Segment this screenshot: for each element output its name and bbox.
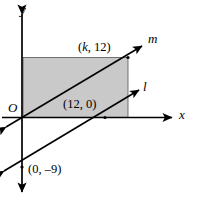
point-label-k-12: (k, 12) [78,41,111,54]
x-axis-label: x [179,108,185,121]
point-dot-0-neg9 [20,165,23,168]
coordinate-diagram: y x O m l (k, 12) (12, 0) (0, –9) [0,0,197,200]
point-dot-k-12 [126,56,129,59]
y-axis-label: y [20,3,26,16]
point-label-12-0: (12, 0) [63,98,96,111]
point-label-k-12-suffix: , 12) [88,40,111,54]
line-m-label: m [148,32,157,45]
line-l-label: l [143,80,147,93]
origin-label: O [8,101,17,114]
point-dot-12-0 [103,116,106,119]
point-label-0-neg9: (0, –9) [28,163,61,176]
